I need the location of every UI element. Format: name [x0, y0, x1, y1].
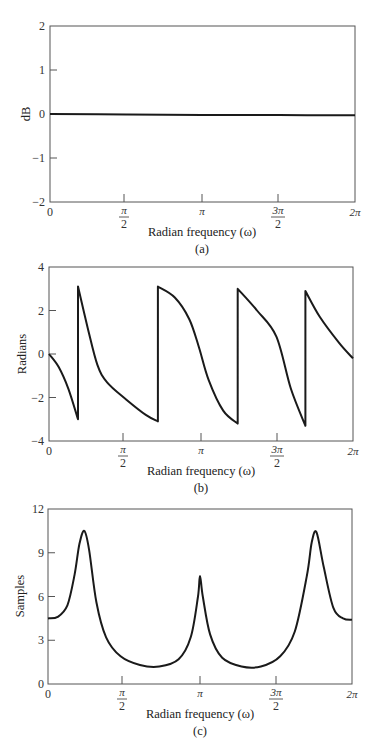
x-ticks-a [124, 194, 278, 202]
magnitude-curve [50, 114, 355, 115]
svg-text:3π: 3π [271, 204, 284, 216]
ytick-c-3: 3 [38, 633, 44, 647]
x-ticks-c [122, 676, 276, 684]
ytick-c-4: 0 [38, 677, 44, 691]
caption-a: (a) [195, 242, 209, 256]
ytick-c-0: 12 [32, 502, 44, 516]
svg-text:0: 0 [45, 687, 51, 701]
plot-frame-c [48, 509, 352, 684]
svg-text:0: 0 [47, 205, 53, 219]
ytick-b-2: 0 [38, 347, 44, 361]
svg-text:π: π [199, 205, 205, 217]
svg-text:0: 0 [46, 444, 52, 458]
phase-curve [49, 287, 353, 426]
ylabel-c: Samples [13, 575, 27, 617]
svg-text:2: 2 [275, 217, 281, 231]
ytick-c-2: 6 [38, 590, 44, 604]
svg-text:3π: 3π [269, 686, 282, 698]
ytick-a-1: 1 [39, 63, 45, 77]
caption-b: (b) [194, 481, 209, 495]
panel-c: 12 9 6 3 0 Samples 0 π 2 π 3π 2 2π Radia… [13, 502, 358, 738]
svg-text:2: 2 [120, 456, 126, 470]
x-ticks-b [123, 433, 277, 441]
ytick-b-0: 4 [38, 260, 44, 274]
ytick-b-4: −4 [31, 434, 44, 448]
svg-text:2: 2 [121, 217, 127, 231]
svg-text:π: π [119, 686, 125, 698]
ylabel-a: dB [19, 107, 33, 122]
svg-text:π: π [198, 444, 204, 456]
svg-text:3π: 3π [270, 443, 283, 455]
ytick-b-1: 2 [38, 304, 44, 318]
svg-text:π: π [197, 687, 203, 699]
panel-b: 4 2 0 −2 −4 Radians 0 π 2 π 3π 2 2π Radi… [15, 260, 359, 495]
svg-text:2π: 2π [347, 445, 359, 457]
figure-canvas: 2 1 0 −1 −2 dB 0 π 2 π 3π 2 2π Radian fr… [0, 0, 376, 744]
ytick-a-0: 2 [39, 19, 45, 33]
ytick-c-1: 9 [38, 546, 44, 560]
y-ticks-c [48, 553, 55, 641]
svg-text:2π: 2π [349, 206, 361, 218]
ytick-b-3: −2 [31, 391, 44, 405]
svg-text:π: π [120, 443, 126, 455]
svg-text:2π: 2π [346, 688, 358, 700]
ytick-a-2: 0 [39, 107, 45, 121]
svg-text:2: 2 [119, 699, 125, 713]
xlabel-c: Radian frequency (ω) [146, 707, 254, 721]
xlabel-a: Radian frequency (ω) [148, 225, 256, 239]
group-delay-curve [48, 531, 352, 668]
ytick-a-4: −2 [32, 195, 45, 209]
caption-c: (c) [193, 724, 207, 738]
ytick-a-3: −1 [32, 151, 45, 165]
ylabel-b: Radians [15, 334, 29, 374]
svg-text:2: 2 [274, 456, 280, 470]
svg-text:π: π [121, 204, 127, 216]
panel-a: 2 1 0 −1 −2 dB 0 π 2 π 3π 2 2π Radian fr… [19, 19, 361, 256]
svg-text:2: 2 [273, 699, 279, 713]
xlabel-b: Radian frequency (ω) [147, 464, 255, 478]
